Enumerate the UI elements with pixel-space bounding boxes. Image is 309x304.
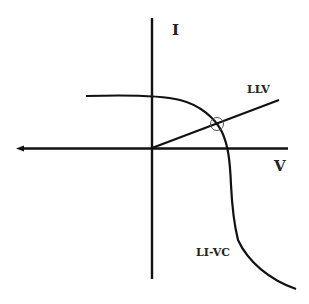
diagram-canvas bbox=[0, 0, 309, 304]
li-vc-curve bbox=[86, 95, 296, 289]
i-axis-label: I bbox=[172, 21, 179, 39]
iv-diagram: I V LLV LI-VC bbox=[0, 0, 309, 304]
llv-line bbox=[152, 100, 279, 148]
llv-label: LLV bbox=[247, 83, 270, 96]
li-vc-label: LI-VC bbox=[196, 246, 230, 259]
v-axis-label: V bbox=[274, 157, 286, 175]
v-axis-arrow-icon bbox=[16, 146, 24, 152]
